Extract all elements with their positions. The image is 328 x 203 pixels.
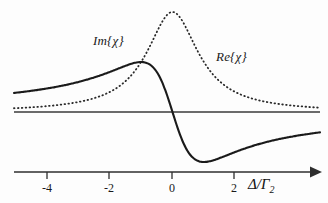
x-axis-tick-label-0: -4 bbox=[42, 181, 52, 196]
x-axis-arrow-icon bbox=[310, 167, 322, 178]
x-axis-title-main: Δ/Γ bbox=[248, 176, 270, 192]
chart-plot-area bbox=[0, 0, 328, 203]
x-axis-tick-label-2: 0 bbox=[169, 181, 175, 196]
x-axis-title: Δ/Γ2 bbox=[248, 176, 275, 195]
susceptibility-chart-figure: -4-202 Im{χ} Re{χ} Δ/Γ2 bbox=[0, 0, 328, 203]
x-axis-title-subscript: 2 bbox=[270, 184, 275, 195]
x-axis-tick-label-3: 2 bbox=[231, 181, 237, 196]
x-axis-tick-label-1: -2 bbox=[104, 181, 114, 196]
re-chi-label: Re{χ} bbox=[216, 49, 247, 65]
x-axis-tick-marks bbox=[47, 172, 234, 179]
im-chi-label: Im{χ} bbox=[93, 33, 124, 49]
